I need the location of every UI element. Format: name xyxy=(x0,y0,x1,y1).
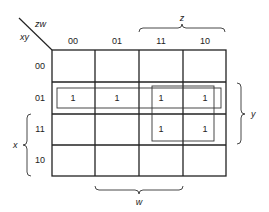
cell-value: 1 xyxy=(114,93,119,103)
row-header: 11 xyxy=(35,124,44,134)
kmap-grid xyxy=(52,50,226,176)
x-label: x xyxy=(12,140,18,150)
row-header: 01 xyxy=(35,93,45,103)
cell-value: 1 xyxy=(202,124,207,134)
z-label: z xyxy=(179,13,185,23)
row-vars-label: xy xyxy=(19,32,30,42)
y-brace xyxy=(237,83,245,144)
cell-value: 1 xyxy=(158,124,163,134)
w-label: w xyxy=(136,197,143,207)
w-brace xyxy=(95,186,183,194)
cell-value: 1 xyxy=(70,93,75,103)
col-header: 10 xyxy=(200,36,210,46)
cell-value: 1 xyxy=(202,93,207,103)
col-header: 01 xyxy=(112,36,122,46)
col-header: 00 xyxy=(68,36,78,46)
col-vars-label: zw xyxy=(34,19,47,29)
row-header: 10 xyxy=(35,155,45,165)
y-label: y xyxy=(250,109,256,119)
row-header: 00 xyxy=(35,61,45,71)
col-header: 11 xyxy=(156,36,165,46)
karnaugh-map: zw xy 00 01 11 10 00 01 11 10 1 1 1 1 1 … xyxy=(0,0,269,212)
x-brace xyxy=(23,114,31,176)
z-brace xyxy=(139,24,225,32)
cell-value: 1 xyxy=(158,93,163,103)
